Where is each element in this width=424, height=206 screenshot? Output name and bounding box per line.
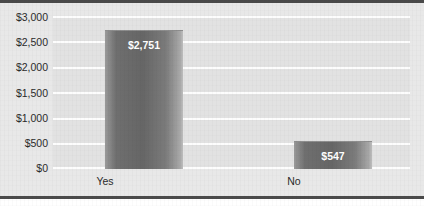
bar-yes[interactable]: $2,751 [105, 30, 183, 170]
bar-value-label: $2,751 [105, 39, 183, 51]
bar-chart: $3,000 $2,500 $2,000 $1,500 $1,000 $500 … [0, 0, 424, 206]
y-axis-tick-label: $1,500 [0, 88, 48, 99]
y-axis-tick-label: $500 [0, 138, 48, 149]
y-axis-tick-label: $0 [0, 163, 48, 174]
y-axis-tick-label: $3,000 [0, 12, 48, 23]
bar-no[interactable]: $547 [294, 141, 372, 170]
chart-top-border [0, 0, 424, 3]
y-axis-tick-label: $2,500 [0, 37, 48, 48]
x-axis-tick-label-no: No [255, 175, 333, 187]
y-axis-tick-label: $2,000 [0, 62, 48, 73]
x-axis-tick-label-yes: Yes [66, 175, 144, 187]
gridline [53, 16, 410, 18]
y-axis-tick-label: $1,000 [0, 113, 48, 124]
bar-value-label: $547 [294, 150, 372, 162]
chart-outer-margin [0, 199, 424, 206]
plot-area: $2,751 $547 [53, 16, 410, 169]
